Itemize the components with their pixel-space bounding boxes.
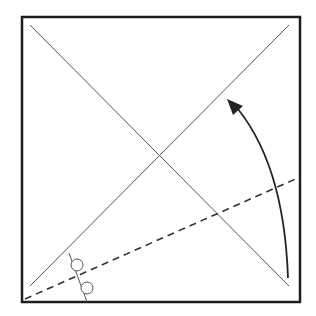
paper-square bbox=[22, 17, 300, 302]
equal-angle-marker-circle bbox=[81, 282, 93, 294]
equal-angle-marker-circle bbox=[71, 259, 83, 271]
origami-diagram bbox=[0, 0, 316, 316]
